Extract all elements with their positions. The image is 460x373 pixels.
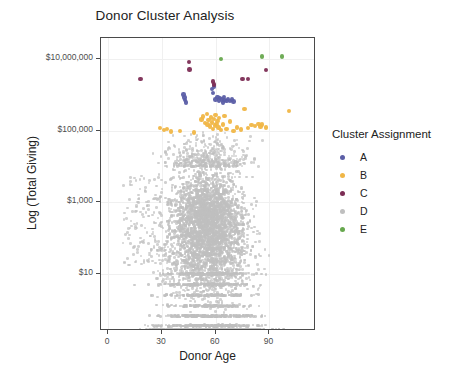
data-point-d — [221, 147, 224, 150]
data-point-d — [233, 305, 236, 308]
data-point-d — [251, 245, 254, 248]
data-point-d — [133, 284, 136, 287]
data-point-d — [171, 189, 174, 192]
data-point-d — [221, 267, 224, 270]
data-point-d — [227, 278, 230, 281]
data-point-d — [210, 251, 213, 254]
data-point-d — [142, 207, 145, 210]
x-tick-mark-0 — [107, 330, 108, 334]
data-point-d — [178, 171, 181, 174]
data-point-d — [174, 297, 177, 300]
data-point-d — [249, 220, 252, 223]
legend-item-a[interactable]: A — [332, 148, 431, 166]
data-point-d — [130, 220, 133, 223]
data-point-e — [280, 54, 284, 58]
data-point-c — [246, 77, 250, 81]
data-point-d — [186, 257, 189, 260]
data-point-d — [180, 197, 183, 200]
data-point-d — [136, 251, 139, 254]
data-point-d — [170, 214, 173, 217]
data-point-d — [159, 195, 162, 198]
legend-item-d[interactable]: D — [332, 202, 431, 220]
data-point-d — [232, 173, 235, 176]
data-point-d — [230, 262, 233, 265]
data-point-d — [147, 260, 150, 263]
legend-item-c[interactable]: C — [332, 184, 431, 202]
data-point-d — [143, 177, 146, 180]
data-point-d — [132, 253, 135, 256]
data-point-d — [172, 273, 175, 276]
data-point-c — [240, 77, 244, 81]
data-point-d — [241, 239, 244, 242]
data-point-d — [156, 243, 159, 246]
data-point-d — [190, 241, 193, 244]
data-point-d — [195, 160, 198, 163]
legend-swatch-icon-d — [332, 209, 352, 214]
data-point-d — [157, 162, 160, 165]
data-point-d — [206, 179, 209, 182]
data-point-d — [223, 165, 226, 168]
data-point-d — [218, 243, 221, 246]
data-point-d — [233, 139, 236, 142]
data-point-d — [261, 139, 264, 142]
data-point-d — [190, 315, 193, 318]
data-point-d — [249, 279, 252, 282]
data-point-d — [214, 315, 217, 318]
data-point-d — [158, 173, 161, 176]
data-point-d — [151, 214, 154, 217]
data-point-d — [223, 154, 226, 157]
data-point-d — [278, 328, 281, 330]
data-point-d — [225, 328, 228, 330]
data-point-d — [147, 242, 150, 245]
data-point-d — [175, 304, 178, 307]
data-point-d — [250, 203, 253, 206]
data-point-d — [166, 267, 169, 270]
data-point-d — [175, 263, 178, 266]
data-point-b — [221, 122, 225, 126]
data-point-d — [147, 283, 150, 286]
data-point-d — [264, 248, 267, 251]
data-point-d — [123, 212, 126, 215]
data-point-d — [166, 203, 169, 206]
data-point-d — [158, 254, 161, 257]
data-point-d — [184, 222, 187, 225]
legend-item-b[interactable]: B — [332, 166, 431, 184]
data-point-d — [232, 264, 235, 267]
data-point-d — [146, 231, 149, 234]
data-point-c — [212, 82, 216, 86]
data-point-d — [206, 209, 209, 212]
legend-item-e[interactable]: E — [332, 220, 431, 238]
data-point-d — [165, 293, 168, 296]
data-point-d — [172, 199, 175, 202]
data-point-d — [265, 273, 268, 276]
data-point-d — [271, 328, 274, 330]
data-point-d — [192, 237, 195, 240]
data-point-d — [219, 196, 222, 199]
data-point-d — [230, 230, 233, 233]
legend-label-d: D — [360, 205, 368, 217]
data-point-d — [219, 172, 222, 175]
data-point-d — [248, 305, 251, 308]
data-point-d — [174, 145, 177, 148]
data-point-d — [137, 245, 140, 248]
data-point-d — [200, 173, 203, 176]
data-point-d — [188, 205, 191, 208]
data-point-d — [234, 202, 237, 205]
data-point-d — [204, 223, 207, 226]
data-point-d — [183, 170, 186, 173]
data-point-d — [163, 283, 166, 286]
data-point-d — [219, 328, 222, 330]
data-point-d — [253, 226, 256, 229]
data-point-a — [184, 100, 188, 104]
x-axis-title: Donor Age — [100, 349, 315, 363]
data-point-d — [174, 328, 177, 330]
data-point-d — [148, 252, 151, 255]
data-point-d — [167, 157, 170, 160]
data-point-d — [184, 298, 187, 301]
data-point-d — [230, 209, 233, 212]
data-point-d — [213, 272, 216, 275]
data-point-d — [188, 168, 191, 171]
data-point-d — [250, 227, 253, 230]
data-point-d — [263, 268, 266, 271]
data-point-d — [204, 273, 207, 276]
